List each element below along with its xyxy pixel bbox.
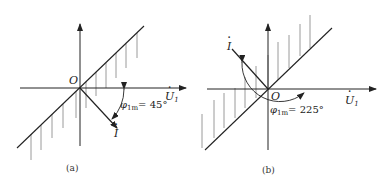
diagram-canvas [0,0,388,192]
hatch-lines-b [202,15,310,148]
current-vector-b [232,49,268,89]
origin-label-a: O [69,74,78,87]
voltage-label-b: U1 [345,94,359,108]
current-label-a: I [114,127,118,140]
hatch-lines-a [31,33,137,160]
caption-a: (a) [66,163,78,173]
caption-b: (b) [262,165,275,175]
panel-a [17,24,186,160]
origin-label-b: O [271,90,280,103]
angle-label-a: φ1m= 45° [120,99,167,112]
angle-label-b: φ1m= 225° [270,104,324,117]
current-label-b: I [227,40,231,53]
